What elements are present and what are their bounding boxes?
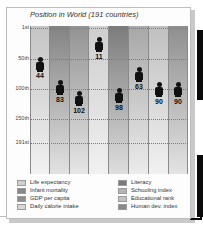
ytick-50th: 50th <box>18 55 29 61</box>
rank-label-gdp-per-capita: 102 <box>69 107 89 114</box>
legend-label: Daily calorie intake <box>30 203 79 209</box>
ytick-191st: 191st <box>16 139 29 145</box>
legend-label: Literacy <box>131 179 151 185</box>
rank-label-schooling-index: 63 <box>129 83 149 90</box>
chart-title: Position in World (191 countries) <box>30 10 138 19</box>
legend-swatch <box>118 204 127 210</box>
rank-label-human-dev-index: 90 <box>168 98 188 105</box>
rank-label-educational-rank: 90 <box>149 98 169 105</box>
black-bar-bottom <box>197 155 203 217</box>
column-schooling-index <box>129 26 149 174</box>
column-life-expectancy <box>30 26 50 174</box>
legend-swatch <box>118 180 127 186</box>
legend-label: Infant mortality <box>30 187 68 193</box>
legend-swatch <box>17 180 26 186</box>
gridline-50th <box>30 59 188 60</box>
bracket-line <box>190 215 202 220</box>
gridline-150th <box>30 119 188 120</box>
rank-label-daily-calorie-intake: 11 <box>89 53 109 60</box>
legend-label: Educational rank <box>131 195 174 201</box>
rank-label-life-expectancy: 44 <box>30 72 50 79</box>
legend-label: Life expectancy <box>30 179 70 185</box>
black-bar-top <box>197 30 203 100</box>
legend-label: Schooling index <box>131 187 172 193</box>
legend-label: Human dev. index <box>131 203 177 209</box>
legend-swatch <box>17 196 26 202</box>
legend-swatch <box>118 196 127 202</box>
rank-label-literacy: 98 <box>109 104 129 111</box>
ytick-100th: 100th <box>15 85 29 91</box>
legend-swatch <box>17 188 26 194</box>
legend-label: GDP per capita <box>30 195 70 201</box>
legend-swatch <box>17 204 26 210</box>
gridline-100th <box>30 89 188 90</box>
gridline-191st <box>30 143 188 144</box>
ytick-150th: 150th <box>15 115 29 121</box>
legend-swatch <box>118 188 127 194</box>
ytick-1st: 1st <box>22 24 29 30</box>
rank-label-infant-mortality: 83 <box>50 96 70 103</box>
gridline-1st <box>30 28 188 29</box>
